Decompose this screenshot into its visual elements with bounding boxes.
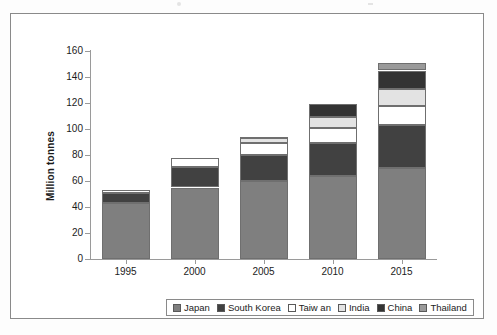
y-axis-tick-label: 80 — [39, 149, 83, 160]
x-axis-tick-label: 2015 — [390, 266, 412, 277]
y-axis-tick-label-slot: 40 — [37, 207, 83, 208]
bar-segment-2015-south-korea[interactable] — [378, 125, 426, 168]
x-axis-tick-label: 1995 — [114, 266, 136, 277]
legend-item-india[interactable]: India — [338, 302, 370, 313]
chart-plot-wrapper: Million tonnes 020406080100120140160 199… — [11, 14, 485, 320]
chart-legend: JapanSouth KoreaTaiw anIndiaChinaThailan… — [166, 299, 474, 316]
x-axis-tick — [195, 260, 196, 264]
legend-item-label: Taiw an — [299, 302, 331, 313]
bar-segment-2015-japan[interactable] — [378, 168, 426, 259]
scan-artifact — [177, 2, 181, 6]
plot-area — [91, 51, 436, 259]
bar-segment-2010-south-korea[interactable] — [309, 143, 357, 176]
scan-artifact — [368, 3, 373, 5]
y-axis-tick-label-slot: 100 — [37, 129, 83, 130]
x-axis-tick — [333, 260, 334, 264]
legend-swatch-icon — [338, 304, 346, 312]
bar-segment-2015-thailand[interactable] — [378, 63, 426, 71]
legend-item-label: China — [388, 302, 413, 313]
legend-swatch-icon — [173, 304, 181, 312]
bar-2010[interactable] — [309, 51, 357, 259]
bar-2000[interactable] — [171, 51, 219, 259]
legend-swatch-icon — [217, 304, 225, 312]
y-axis-tick-label-slot: 80 — [37, 155, 83, 156]
bar-segment-2005-south-korea[interactable] — [240, 155, 288, 181]
x-axis-tick-label: 2000 — [183, 266, 205, 277]
y-axis-tick-label-slot: 160 — [37, 51, 83, 52]
bar-1995[interactable] — [102, 51, 150, 259]
bar-segment-1995-south-korea[interactable] — [102, 193, 150, 203]
legend-swatch-icon — [288, 304, 296, 312]
y-axis-tick-label-slot: 0 — [37, 259, 83, 260]
y-axis-tick-label: 20 — [39, 227, 83, 238]
y-axis-tick-label: 40 — [39, 201, 83, 212]
bar-segment-2005-taiw-an[interactable] — [240, 143, 288, 155]
x-axis-tick-label: 2010 — [321, 266, 343, 277]
y-axis-tick-label: 140 — [39, 71, 83, 82]
bar-segment-2010-china[interactable] — [309, 104, 357, 117]
bar-segment-2010-taiw-an[interactable] — [309, 128, 357, 144]
legend-item-label: South Korea — [228, 302, 281, 313]
x-axis-tick — [264, 260, 265, 264]
legend-swatch-icon — [419, 304, 427, 312]
legend-item-label: Thailand — [430, 302, 466, 313]
bar-segment-2000-south-korea[interactable] — [171, 167, 219, 188]
y-axis-tick-label-slot: 20 — [37, 233, 83, 234]
bar-segment-2010-japan[interactable] — [309, 176, 357, 259]
y-axis-tick-label: 160 — [39, 45, 83, 56]
x-axis-tick-label: 2005 — [252, 266, 274, 277]
y-axis-tick-label: 120 — [39, 97, 83, 108]
y-axis-tick — [85, 259, 91, 260]
legend-item-china[interactable]: China — [377, 302, 413, 313]
y-axis-tick-label-slot: 140 — [37, 77, 83, 78]
bar-segment-2000-japan[interactable] — [171, 188, 219, 260]
bar-segment-2005-china[interactable] — [240, 137, 288, 139]
y-axis-tick-label: 100 — [39, 123, 83, 134]
chart-frame: Million tonnes 020406080100120140160 199… — [10, 13, 484, 319]
bar-2015[interactable] — [378, 51, 426, 259]
bar-segment-2005-india[interactable] — [240, 138, 288, 143]
legend-item-japan[interactable]: Japan — [173, 302, 210, 313]
x-axis-tick — [402, 260, 403, 264]
legend-item-taiw-an[interactable]: Taiw an — [288, 302, 331, 313]
y-axis-tick-label-slot: 60 — [37, 181, 83, 182]
y-axis-tick-label: 60 — [39, 175, 83, 186]
bar-segment-2015-taiw-an[interactable] — [378, 106, 426, 126]
bar-segment-2015-china[interactable] — [378, 71, 426, 89]
bar-segment-1995-japan[interactable] — [102, 203, 150, 259]
legend-item-thailand[interactable]: Thailand — [419, 302, 466, 313]
legend-item-label: Japan — [184, 302, 210, 313]
legend-swatch-icon — [377, 304, 385, 312]
bar-segment-2010-india[interactable] — [309, 117, 357, 127]
bar-2005[interactable] — [240, 51, 288, 259]
y-axis-tick-label: 0 — [39, 253, 83, 264]
bar-segment-1995-taiw-an[interactable] — [102, 190, 150, 193]
x-axis-tick — [126, 260, 127, 264]
bar-segment-2015-india[interactable] — [378, 89, 426, 106]
bar-segment-2000-taiw-an[interactable] — [171, 158, 219, 167]
legend-item-south-korea[interactable]: South Korea — [217, 302, 281, 313]
y-axis-tick-label-slot: 120 — [37, 103, 83, 104]
legend-item-label: India — [349, 302, 370, 313]
bar-segment-2005-japan[interactable] — [240, 181, 288, 259]
